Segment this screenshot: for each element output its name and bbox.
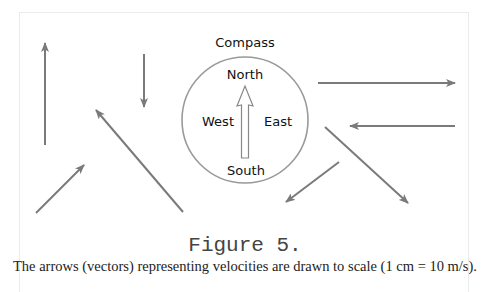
compass-north-arrow-icon xyxy=(237,86,253,158)
vector-arrow-north-west-icon xyxy=(96,110,183,212)
compass-east-label: East xyxy=(264,114,292,129)
compass-south-label: South xyxy=(227,163,265,178)
compass-north-label: North xyxy=(227,67,263,82)
vector-arrow-south-west-icon xyxy=(286,162,339,202)
figure-title: Figure 5. xyxy=(0,234,490,257)
figure-caption: The arrows (vectors) representing veloci… xyxy=(0,258,490,275)
vector-arrow-south-east-icon xyxy=(325,127,408,203)
compass-title: Compass xyxy=(215,35,274,50)
compass-west-label: West xyxy=(202,114,234,129)
vector-arrow-north-east-icon xyxy=(36,165,84,213)
